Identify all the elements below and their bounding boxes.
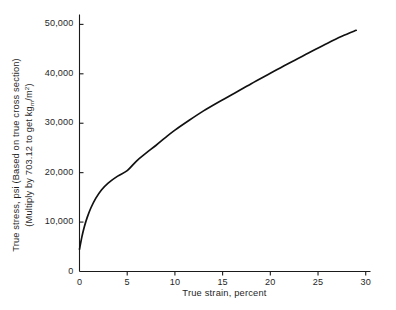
- y-tick-label: 20,000: [10, 167, 74, 177]
- x-tick-label: 5: [107, 277, 147, 287]
- x-tick-label: 15: [203, 277, 243, 287]
- y-tick-label: 10,000: [10, 216, 74, 226]
- true-stress-strain-chart: True stress, psi (Based on true cross se…: [0, 0, 396, 310]
- y-tick-label: 30,000: [10, 117, 74, 127]
- plot-area: [0, 0, 396, 310]
- y-tick-label: 40,000: [10, 68, 74, 78]
- x-tick-label: 0: [60, 277, 100, 287]
- x-tick-label: 10: [155, 277, 195, 287]
- x-tick-label: 30: [346, 277, 386, 287]
- y-tick-label: 50,000: [10, 18, 74, 28]
- y-tick-label: 0: [10, 266, 74, 276]
- data-curve: [80, 30, 357, 249]
- x-tick-label: 25: [298, 277, 338, 287]
- x-tick-label: 20: [250, 277, 290, 287]
